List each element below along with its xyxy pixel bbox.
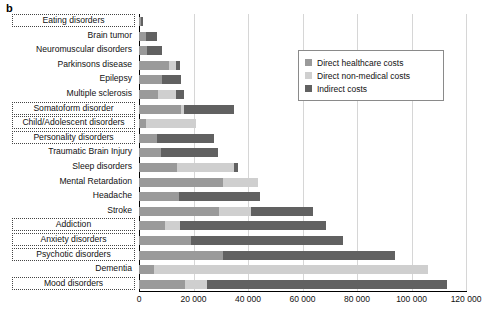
legend-item-indirect: Indirect costs <box>305 82 437 95</box>
bar-row <box>139 160 466 175</box>
bar-segment <box>139 251 223 260</box>
bar-row <box>139 262 466 277</box>
category-label: Mood disorders <box>12 277 135 290</box>
bar-segment <box>146 119 196 128</box>
bar-segment <box>139 221 165 230</box>
bar-row <box>139 277 466 292</box>
stacked-bar <box>139 192 260 201</box>
category-label: Sleep disorders <box>69 160 135 173</box>
bar-row <box>139 102 466 117</box>
category-label: Psychotic disorders <box>12 248 135 261</box>
legend-label-indirect: Indirect costs <box>317 84 367 94</box>
bar-segment <box>139 105 181 114</box>
stacked-bar <box>139 178 258 187</box>
stacked-bar <box>139 17 143 26</box>
category-label: Personality disorders <box>12 131 135 144</box>
category-label: Traumatic Brain Injury <box>45 145 135 158</box>
x-tick-label: 120 000 <box>451 294 482 304</box>
bar-row <box>139 189 466 204</box>
bar-row <box>139 204 466 219</box>
x-tick-label: 40 000 <box>235 294 261 304</box>
bar-segment <box>177 163 234 172</box>
bar-segment <box>147 46 162 55</box>
grid-line <box>466 14 467 291</box>
panel-letter: b <box>6 2 13 14</box>
legend-swatch-icon-direct-non-medical <box>305 72 312 79</box>
bar-segment <box>207 280 447 289</box>
bar-segment <box>139 207 219 216</box>
bar-segment <box>139 75 162 84</box>
legend-label-direct-healthcare: Direct healthcare costs <box>317 58 403 68</box>
x-tick-label: 60 000 <box>290 294 316 304</box>
bar-segment <box>139 192 179 201</box>
bar-segment <box>161 148 218 157</box>
category-label: Eating disorders <box>12 14 135 27</box>
bar-segment <box>223 178 257 187</box>
stacked-bar <box>139 251 395 260</box>
stacked-bar <box>139 236 343 245</box>
category-label: Addiction <box>12 218 135 231</box>
bar-segment <box>162 75 181 84</box>
category-label: Neuromuscular disorders <box>33 43 135 56</box>
bar-segment <box>165 221 180 230</box>
stacked-bar <box>139 221 326 230</box>
chart-container: b Eating disordersBrain tumorNeuromuscul… <box>0 0 482 312</box>
category-label: Child/Adolescent disorders <box>12 116 135 129</box>
bar-segment <box>157 134 214 143</box>
bar-segment <box>139 119 146 128</box>
x-tick-label: 0 <box>137 294 142 304</box>
bar-row <box>139 233 466 248</box>
bar-row <box>139 218 466 233</box>
bar-row <box>139 29 466 44</box>
bar-segment <box>139 61 169 70</box>
stacked-bar <box>139 105 234 114</box>
bar-segment <box>146 32 157 41</box>
bar-segment <box>139 280 185 289</box>
stacked-bar <box>139 61 180 70</box>
stacked-bar <box>139 280 447 289</box>
bar-segment <box>185 280 207 289</box>
bar-segment <box>139 178 223 187</box>
category-label: Stroke <box>104 204 135 217</box>
bar-segment <box>169 61 176 70</box>
bar-segment <box>223 251 395 260</box>
stacked-bar <box>139 90 184 99</box>
x-tick-label: 20 000 <box>181 294 207 304</box>
category-label-column: Eating disordersBrain tumorNeuromuscular… <box>0 14 137 291</box>
stacked-bar <box>139 75 181 84</box>
category-label: Headache <box>90 189 135 202</box>
legend-label-direct-non-medical: Direct non-medical costs <box>317 71 410 81</box>
bar-segment <box>234 163 238 172</box>
category-label: Epilepsy <box>97 72 135 85</box>
bar-segment <box>141 17 143 26</box>
bar-segment <box>180 221 326 230</box>
bar-segment <box>139 163 177 172</box>
legend-item-direct-healthcare: Direct healthcare costs <box>305 56 437 69</box>
bar-row <box>139 248 466 263</box>
bar-segment <box>179 192 261 201</box>
bar-segment <box>158 90 176 99</box>
stacked-bar <box>139 207 313 216</box>
x-tick-label: 100 000 <box>396 294 427 304</box>
bar-segment <box>139 236 191 245</box>
x-tick-label: 80 000 <box>344 294 370 304</box>
bar-segment <box>139 265 154 274</box>
stacked-bar <box>139 148 218 157</box>
stacked-bar <box>139 265 428 274</box>
bar-segment <box>191 236 344 245</box>
bar-segment <box>251 207 314 216</box>
bar-row <box>139 131 466 146</box>
category-label: Brain tumor <box>85 29 135 42</box>
stacked-bar <box>139 46 162 55</box>
bar-segment <box>176 61 180 70</box>
legend-item-direct-non-medical: Direct non-medical costs <box>305 69 437 82</box>
stacked-bar <box>139 32 157 41</box>
category-label: Multiple sclerosis <box>64 87 135 100</box>
bar-row <box>139 14 466 29</box>
stacked-bar <box>139 134 214 143</box>
stacked-bar <box>139 119 196 128</box>
bar-segment <box>176 90 184 99</box>
stacked-bar <box>139 163 238 172</box>
bar-row <box>139 116 466 131</box>
bar-segment <box>219 207 250 216</box>
